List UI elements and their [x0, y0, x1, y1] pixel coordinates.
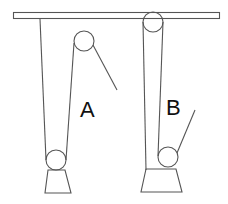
label-b: B — [166, 95, 181, 120]
load-b — [141, 169, 182, 192]
load-a — [45, 170, 71, 193]
rope-b-middle — [158, 22, 163, 156]
pulley-a-lower — [46, 150, 66, 170]
label-a: A — [80, 97, 95, 122]
rope-a-middle — [66, 43, 74, 160]
rope-a-left — [40, 19, 46, 160]
system-a: A — [40, 19, 117, 193]
ceiling-beam — [14, 13, 220, 19]
pulley-b-lower — [158, 147, 178, 167]
rope-a-free-end — [93, 45, 117, 90]
pulley-diagram: A B — [0, 0, 228, 204]
rope-b-left — [143, 22, 146, 170]
system-b: B — [141, 12, 195, 192]
diagram-canvas: A B — [0, 0, 228, 204]
pulley-b-upper — [143, 12, 163, 32]
pulley-a-upper — [74, 31, 94, 51]
